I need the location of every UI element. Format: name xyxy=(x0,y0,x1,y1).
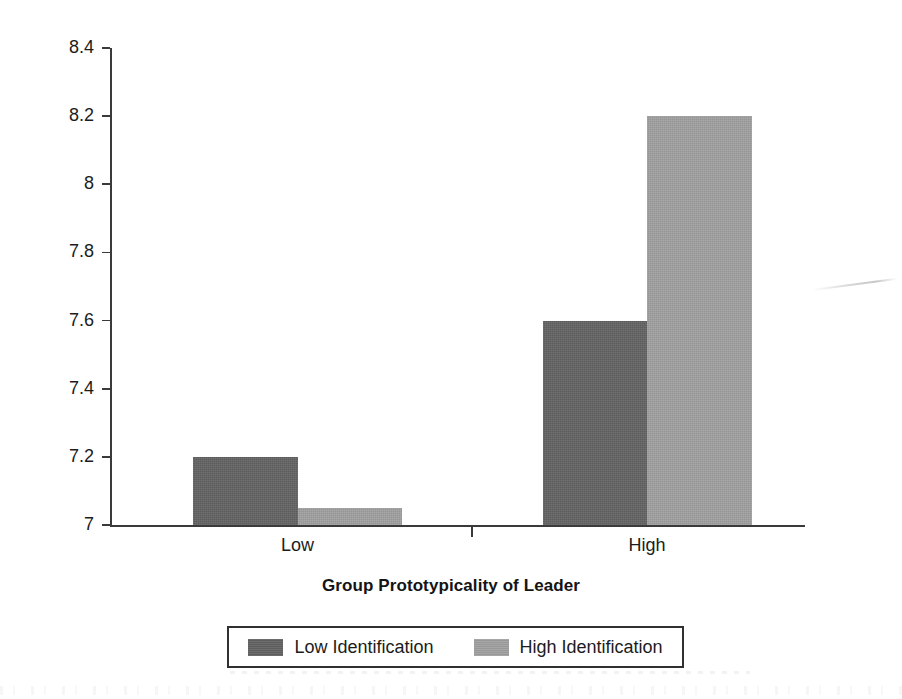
y-axis-tick-mark xyxy=(102,47,110,49)
legend-swatch-icon-low-identification xyxy=(248,639,283,656)
y-axis-tick-label: 8 xyxy=(48,173,94,194)
y-axis-tick-mark xyxy=(102,456,110,458)
x-axis-line xyxy=(110,525,805,527)
x-axis-tick-label-high: High xyxy=(628,535,665,556)
bar-high-high-identification xyxy=(647,116,752,525)
y-axis-tick-mark xyxy=(102,115,110,117)
y-axis-tick-label: 8.2 xyxy=(48,105,94,126)
y-axis-tick-label: 7 xyxy=(48,514,94,535)
legend-entry-low-identification: Low Identification xyxy=(248,637,433,658)
y-axis-tick-label: 7.4 xyxy=(48,378,94,399)
y-axis-tick-mark xyxy=(102,524,110,526)
bar-low-low-identification xyxy=(193,457,298,525)
y-axis-tick-label: 7.6 xyxy=(48,310,94,331)
y-axis-tick-mark xyxy=(102,252,110,254)
y-axis-tick-mark xyxy=(102,320,110,322)
x-axis-title: Group Prototypicality of Leader xyxy=(0,576,902,596)
y-axis-title: Perceived Leadership Effectiveness xyxy=(10,0,46,84)
scan-artifact-streak xyxy=(812,278,897,291)
legend-entry-high-identification: High Identification xyxy=(474,637,663,658)
chart-legend: Low Identification High Identification xyxy=(227,626,684,668)
bar-low-high-identification xyxy=(298,508,403,525)
legend-label-high-identification: High Identification xyxy=(520,637,663,658)
x-axis-group-separator-tick xyxy=(471,526,473,537)
scan-artifact-bottom-line xyxy=(230,671,750,674)
y-axis-tick-mark xyxy=(102,388,110,390)
x-axis-tick-label-low: Low xyxy=(281,535,314,556)
legend-label-low-identification: Low Identification xyxy=(294,637,433,658)
y-axis-line xyxy=(110,48,112,527)
y-axis-tick-mark xyxy=(102,183,110,185)
scan-artifact-bottom-noise xyxy=(0,686,902,695)
bar-chart-figure: Perceived Leadership Effectiveness 8.48.… xyxy=(0,0,902,699)
y-axis-tick-label: 8.4 xyxy=(48,37,94,58)
bar-high-low-identification xyxy=(543,321,648,525)
y-axis-tick-label: 7.8 xyxy=(48,241,94,262)
legend-swatch-icon-high-identification xyxy=(474,639,509,656)
y-axis-tick-label: 7.2 xyxy=(48,446,94,467)
